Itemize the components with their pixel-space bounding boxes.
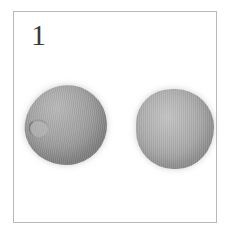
panel-label: 1: [31, 20, 46, 50]
scan-texture: [136, 89, 214, 169]
figure-panel: 1: [13, 11, 217, 223]
right-seed-image: [136, 89, 214, 169]
left-seed-image: [20, 80, 112, 171]
